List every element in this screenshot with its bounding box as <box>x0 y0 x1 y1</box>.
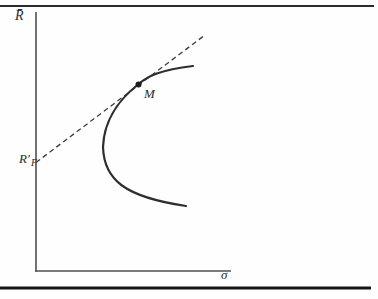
capital-market-line <box>36 35 205 163</box>
y-axis-label: R̄ <box>15 9 24 23</box>
risk-free-rate-label-subscript: F <box>31 157 37 168</box>
risk-free-rate-label: R′F <box>8 152 36 165</box>
plot-svg <box>0 0 378 299</box>
figure-canvas: R̄ R′F M σ <box>0 0 378 299</box>
market-portfolio-label: M <box>144 87 155 100</box>
market-portfolio-point <box>136 82 142 88</box>
x-axis-label: σ <box>221 268 227 281</box>
risk-free-rate-label-main: R′ <box>19 151 30 166</box>
